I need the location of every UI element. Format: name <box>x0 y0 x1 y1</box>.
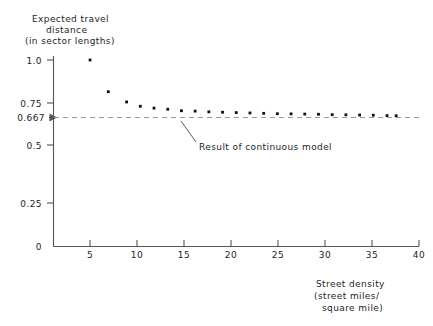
x-axis-title-line-1: Street density <box>316 279 385 289</box>
data-point <box>221 111 224 114</box>
y-axis-title-line-1: Expected travel <box>32 14 109 24</box>
annotation-leader-line <box>181 121 196 142</box>
y-tick-label-0667: 0.667 <box>17 113 45 123</box>
data-point <box>331 113 334 116</box>
y-axis-title: Expected travel distance (in sector leng… <box>25 14 115 46</box>
data-point <box>194 110 197 113</box>
x-tick-label-15: 15 <box>178 250 190 260</box>
data-point <box>107 90 110 93</box>
y-axis-ticks: 1.0 0.75 0.667 0.5 0.25 0 <box>17 56 56 253</box>
data-point <box>262 112 265 115</box>
x-tick-label-10: 10 <box>131 250 143 260</box>
expected-travel-distance-chart: Expected travel distance (in sector leng… <box>0 0 433 326</box>
data-point <box>139 105 142 108</box>
y-tick-label-0: 0 <box>36 242 42 252</box>
x-tick-label-35: 35 <box>366 250 378 260</box>
y-axis-title-line-2: distance <box>46 25 87 35</box>
data-point <box>276 112 279 115</box>
x-axis-title-line-2: (street miles/ <box>314 291 380 301</box>
data-point <box>125 101 128 104</box>
data-point <box>290 113 293 116</box>
data-point <box>345 113 348 116</box>
data-point <box>386 114 389 117</box>
x-axis-title: Street density (street miles/ square mil… <box>314 279 385 313</box>
data-point <box>303 113 306 116</box>
data-point <box>358 114 361 117</box>
data-point <box>166 108 169 111</box>
y-tick-label-075: 0.75 <box>20 99 42 109</box>
x-tick-label-25: 25 <box>272 250 284 260</box>
data-point <box>89 59 92 62</box>
x-axis-title-line-3: square mile) <box>322 303 383 313</box>
data-point <box>153 107 156 110</box>
data-point <box>249 112 252 115</box>
data-point <box>372 114 375 117</box>
x-tick-label-30: 30 <box>319 250 331 260</box>
data-point <box>235 111 238 114</box>
y-tick-label-1: 1.0 <box>26 56 42 66</box>
chart-container: Expected travel distance (in sector leng… <box>0 0 433 326</box>
data-point <box>395 114 398 117</box>
x-tick-label-40: 40 <box>413 250 425 260</box>
x-axis-ticks: 5 10 15 20 25 30 35 40 <box>87 240 425 260</box>
y-tick-label-025: 0.25 <box>20 199 42 209</box>
y-axis-title-line-3: (in sector lengths) <box>25 36 115 46</box>
data-point <box>207 110 210 113</box>
data-point <box>317 113 320 116</box>
x-tick-label-20: 20 <box>225 250 237 260</box>
annotation-result-of-continuous-model: Result of continuous model <box>199 142 332 152</box>
x-tick-label-5: 5 <box>87 250 93 260</box>
data-point-series <box>89 59 398 118</box>
y-tick-label-05: 0.5 <box>26 141 42 151</box>
data-point <box>180 109 183 112</box>
